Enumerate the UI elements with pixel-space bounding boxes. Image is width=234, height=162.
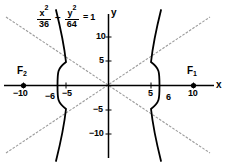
y-tick-label-10: 10 — [96, 32, 105, 41]
x-tick-label-10: 10 — [188, 89, 197, 98]
hyperbola-equation: x2 36 − y2 64 = 1 — [36, 6, 95, 29]
equation-x-variable: x — [40, 8, 45, 18]
focus-f2-subscript: 2 — [23, 70, 27, 77]
focus-label-f2: F2 — [17, 66, 27, 76]
x-tick-label--6: −6 — [45, 92, 55, 101]
focus-f1-subscript: 1 — [193, 70, 197, 77]
equation-x-denominator: 36 — [37, 20, 51, 29]
focus-label-f1: F1 — [187, 66, 197, 76]
y-tick-label--5: −5 — [93, 105, 103, 114]
equation-y-exponent: 2 — [72, 4, 76, 11]
x-tick-label--5: −5 — [62, 89, 72, 98]
x-tick-label-6: 6 — [166, 93, 171, 102]
y-axis-label: y — [111, 8, 117, 18]
equation-term-y: y2 64 — [65, 6, 79, 29]
equation-y-denominator: 64 — [65, 20, 79, 29]
equation-operator: − — [55, 13, 61, 23]
y-tick-label--10: −10 — [89, 129, 103, 138]
equation-term-x: x2 36 — [37, 6, 51, 29]
equation-x-exponent: 2 — [45, 4, 49, 11]
x-axis-label: x — [216, 80, 222, 90]
y-tick-label-5: 5 — [99, 56, 104, 65]
hyperbola-figure: x2 36 − y2 64 = 1 x y −10 −6 −5 5 6 10 1… — [0, 0, 234, 162]
x-tick-label--10: −10 — [13, 89, 27, 98]
x-tick-label-5: 5 — [148, 89, 153, 98]
equation-right-hand-side: 1 — [90, 13, 95, 22]
equation-equals-sign: = — [83, 13, 88, 22]
